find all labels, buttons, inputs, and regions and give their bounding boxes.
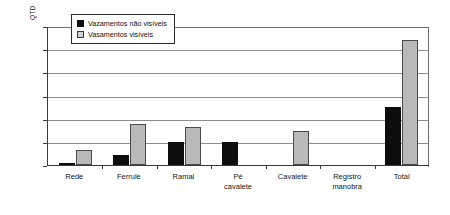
bar-group <box>102 27 156 165</box>
x-axis-category-label: Pécavalete <box>211 172 266 191</box>
x-axis-category-label: Rede <box>47 172 102 191</box>
plot-area <box>47 27 429 166</box>
bar-group <box>375 27 429 165</box>
x-axis-category-label: Ramal <box>156 172 211 191</box>
x-axis-category-label: Registromanobra <box>320 172 375 191</box>
legend-item-label: Vazamentos não visíveis <box>88 19 167 28</box>
x-axis-category-label: Cavalete <box>265 172 320 191</box>
bar-groups <box>48 27 429 165</box>
bar-group <box>320 27 374 165</box>
y-axis-tick-mark <box>43 166 47 167</box>
bar <box>402 40 418 165</box>
legend-item-label: Vasamentos visíveis <box>88 30 153 39</box>
bar-chart: QTD 020040060080010001200 RedeFerruleRam… <box>0 0 450 215</box>
bar-group <box>266 27 320 165</box>
y-axis-title: QTD <box>29 2 43 24</box>
bar <box>59 163 75 165</box>
bar <box>168 142 184 165</box>
bar <box>293 131 309 165</box>
bar <box>130 124 146 165</box>
x-axis-category-labels: RedeFerruleRamalPécavaleteCavaleteRegist… <box>47 172 429 191</box>
legend-item-nao-visiveis: Vazamentos não visíveis <box>77 18 167 29</box>
chart-legend: Vazamentos não visíveis Vasamentos visív… <box>71 14 175 44</box>
legend-item-visiveis: Vasamentos visíveis <box>77 29 167 40</box>
bar-group <box>157 27 211 165</box>
bar-group <box>48 27 102 165</box>
x-axis-category-label: Total <box>374 172 429 191</box>
legend-swatch-icon <box>77 31 84 38</box>
bar <box>76 150 92 165</box>
bar <box>113 155 129 165</box>
bar-group <box>211 27 265 165</box>
bar <box>222 142 238 165</box>
bar <box>185 127 201 165</box>
bar <box>385 107 401 165</box>
x-axis-category-label: Ferrule <box>102 172 157 191</box>
legend-swatch-icon <box>77 20 84 27</box>
